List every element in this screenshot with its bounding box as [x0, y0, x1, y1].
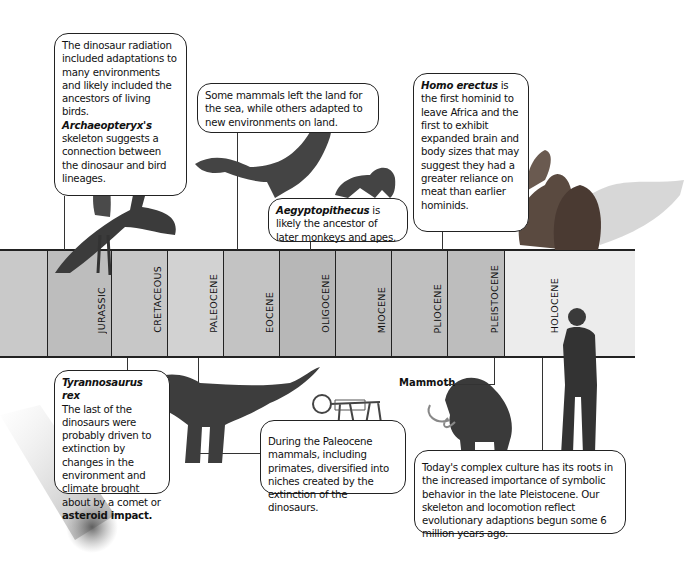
period-label: OLIGOCENE [320, 274, 331, 333]
callout-emphasis: Archaeopteryx's [62, 120, 152, 131]
callout-text: Today's complex culture has its roots in… [422, 462, 613, 539]
timeline-bottom-rule [0, 356, 635, 358]
period-label: PALEOCENE [208, 274, 219, 333]
callout-homo-erectus: Homo erectus is the first hominid to lea… [413, 73, 529, 232]
callout-emphasis: Aegyptopithecus [276, 205, 369, 216]
callout-text: skeleton suggests a connection between t… [62, 133, 166, 184]
period-pliocene: PLIOCENE [392, 250, 448, 357]
period-miocene: MIOCENE [336, 250, 392, 357]
connector-homo-erectus [442, 230, 443, 250]
mammoth-label: Mammoth [399, 377, 455, 388]
modern-human-illustration [555, 305, 615, 460]
period-label: JURASSIC [96, 287, 107, 333]
callout-text: is the first hominid to leave Africa and… [421, 80, 519, 211]
mammoth-label-text: Mammoth [399, 377, 455, 388]
callout-text: The dinosaur radiation included adaptati… [62, 40, 177, 117]
period-label: PLEISTOCENE [489, 265, 500, 333]
homo-erectus-illustration [510, 135, 684, 255]
period-pleistocene: PLEISTOCENE [448, 250, 505, 357]
callout-title: Tyrannosaurus rex [62, 376, 162, 403]
period-label: EOCENE [264, 292, 275, 333]
aegyptopithecus-illustration [330, 160, 400, 200]
period-label: CRETACEOUS [152, 266, 163, 333]
period-oligocene: OLIGOCENE [280, 250, 336, 357]
callout-text: Some mammals left the land for the sea, … [205, 90, 363, 128]
callout-text: During the Paleocene mammals, including … [268, 436, 389, 513]
mammoth-label-leader [446, 384, 494, 385]
period-label: PLIOCENE [432, 284, 443, 333]
callout-emphasis: asteroid impact. [62, 510, 152, 521]
callout-dinosaur-radiation: The dinosaur radiation included adaptati… [54, 33, 187, 196]
callout-today: Today's complex culture has its roots in… [414, 450, 626, 534]
connector-today [542, 358, 543, 450]
callout-emphasis: Homo erectus [421, 80, 498, 91]
callout-paleocene: During the Paleocene mammals, including … [260, 420, 406, 494]
period-label: MIOCENE [376, 287, 387, 333]
callout-tyrannosaurus: Tyrannosaurus rexThe last of the dinosau… [54, 370, 170, 494]
period-eocene: EOCENE [224, 250, 280, 357]
callout-text: The last of the dinosaurs were probably … [62, 404, 161, 508]
callout-mammals-sea: Some mammals left the land for the sea, … [197, 83, 379, 133]
callout-aegyptopithecus: Aegyptopithecus is likely the ancestor o… [268, 198, 408, 242]
